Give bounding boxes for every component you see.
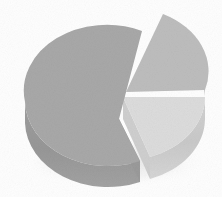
pie-chart-figure — [0, 0, 222, 197]
scan-grain-overlay — [0, 0, 222, 197]
pie-chart-canvas — [0, 0, 222, 197]
